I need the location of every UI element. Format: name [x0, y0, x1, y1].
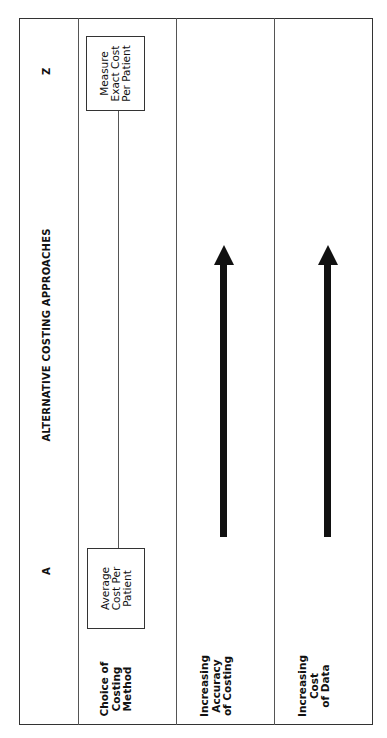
- row-label-choice-of-costing-method: Choice of Costing Method: [99, 655, 134, 723]
- measure-exact-cost-box: Measure Exact Cost Per Patient: [86, 36, 145, 111]
- costing-method-connector-line: [118, 111, 119, 548]
- row-label-increasing-cost-of-data: Increasing Cost of Data: [297, 649, 332, 723]
- average-cost-per-patient-box: Average Cost Per Patient: [87, 548, 145, 629]
- diagram-frame: [19, 18, 373, 725]
- row-divider-2: [274, 18, 275, 725]
- row-divider-header: [78, 18, 79, 725]
- row-label-increasing-accuracy: Increasing Accuracy of Costing: [199, 649, 234, 723]
- header-title: ALTERNATIVE COSTING APPROACHES: [41, 135, 52, 535]
- cost-arrow-head-icon: [318, 245, 338, 265]
- endpoint-z-label: Z: [41, 68, 52, 75]
- cost-arrow-shaft: [324, 262, 331, 537]
- row-divider-1: [176, 18, 177, 725]
- endpoint-a-label: A: [41, 567, 52, 575]
- accuracy-arrow-head-icon: [214, 245, 234, 265]
- costing-approaches-diagram: A ALTERNATIVE COSTING APPROACHES Z Choic…: [19, 18, 373, 725]
- accuracy-arrow-shaft: [220, 262, 227, 537]
